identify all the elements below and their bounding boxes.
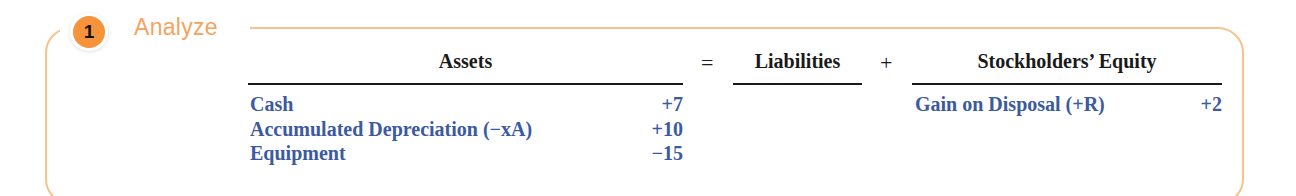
liabilities-rule bbox=[733, 83, 862, 85]
asset-amount: +7 bbox=[600, 93, 683, 116]
asset-amount: +10 bbox=[600, 118, 683, 141]
equity-amount: +2 bbox=[1160, 93, 1222, 116]
liabilities-header: Liabilities bbox=[733, 50, 862, 73]
step-number-badge: 1 bbox=[73, 16, 105, 48]
asset-account: Equipment bbox=[250, 142, 346, 165]
assets-rule bbox=[248, 83, 683, 85]
asset-account: Accumulated Depreciation (−xA) bbox=[250, 118, 532, 141]
step-title: Analyze bbox=[134, 14, 218, 41]
asset-account: Cash bbox=[250, 93, 293, 116]
asset-amount: −15 bbox=[600, 142, 683, 165]
equals-sign: = bbox=[701, 50, 713, 76]
equity-header: Stockholders’ Equity bbox=[912, 50, 1222, 73]
plus-sign: + bbox=[880, 50, 892, 76]
equity-account: Gain on Disposal (+R) bbox=[915, 93, 1105, 116]
assets-header: Assets bbox=[248, 50, 683, 73]
equity-rule bbox=[912, 83, 1222, 85]
